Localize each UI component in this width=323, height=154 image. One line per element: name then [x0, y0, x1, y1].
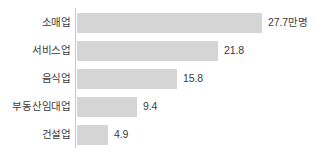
bar-row: 음식업 15.8	[0, 68, 323, 89]
category-label: 음식업	[0, 68, 71, 89]
bar-row: 서비스업 21.8	[0, 40, 323, 61]
category-label: 소매업	[0, 12, 71, 33]
value-label: 21.8	[224, 40, 244, 61]
bar-segment	[77, 13, 262, 33]
horizontal-bar-chart: 소매업 27.7만명 서비스업 21.8 음식업 15.8 부동산임대업 9.4…	[0, 0, 323, 154]
bar-segment	[77, 125, 108, 145]
bar-row: 부동산임대업 9.4	[0, 96, 323, 117]
category-label: 건설업	[0, 124, 71, 145]
bar-segment	[77, 97, 137, 117]
value-label: 9.4	[143, 96, 157, 117]
category-label: 부동산임대업	[0, 96, 71, 117]
plot-area: 소매업 27.7만명 서비스업 21.8 음식업 15.8 부동산임대업 9.4…	[0, 0, 323, 154]
bar-row: 건설업 4.9	[0, 124, 323, 145]
value-label: 15.8	[183, 68, 203, 89]
bar-segment	[77, 41, 218, 61]
value-label: 27.7만명	[268, 12, 308, 33]
value-label: 4.9	[114, 124, 128, 145]
bar-segment	[77, 69, 177, 89]
category-label: 서비스업	[0, 40, 71, 61]
bar-row: 소매업 27.7만명	[0, 12, 323, 33]
